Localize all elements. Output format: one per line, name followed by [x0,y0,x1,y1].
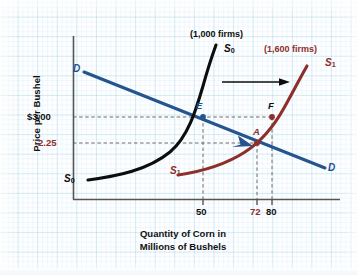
label-supply-final-top: S1 [325,58,336,68]
label-supply-initial-top: S0 [224,44,235,54]
x-axis-caption-line2: Millions of Bushels [73,241,293,254]
y-tick-label-300: $3.00 [27,112,51,122]
point-marker-f [269,114,275,120]
label-supply-final-bottom: S1 [170,166,181,176]
figure-canvas: Price per Bushel $3.00 2.25 50 72 80 (1,… [0,0,357,275]
annotation-firms-initial: (1,000 firms) [190,30,243,39]
point-marker-e [200,114,206,120]
supply-shift-arrow [222,78,290,86]
point-markers [200,114,275,146]
label-point-e: E [196,101,202,111]
demand-curve [84,72,325,168]
supply-curve-initial [88,45,216,180]
annotation-firms-final: (1,600 firms) [264,45,317,54]
guide-lines [73,117,272,199]
label-point-a: A [253,127,260,137]
bottom-edge-band [0,268,357,275]
label-supply-initial-bottom: S0 [64,174,75,184]
point-marker-a [254,140,260,146]
x-axis-caption: Quantity of Corn in Millions of Bushels [73,228,293,253]
x-tick-label-50: 50 [196,207,207,217]
label-point-f: F [268,101,274,111]
label-demand-left: D [73,64,80,74]
x-tick-label-72: 72 [250,207,261,217]
x-axis-caption-line1: Quantity of Corn in [73,228,293,241]
x-tick-label-80: 80 [266,207,277,217]
label-demand-right: D [328,163,335,173]
y-tick-label-225: 2.25 [38,138,57,148]
